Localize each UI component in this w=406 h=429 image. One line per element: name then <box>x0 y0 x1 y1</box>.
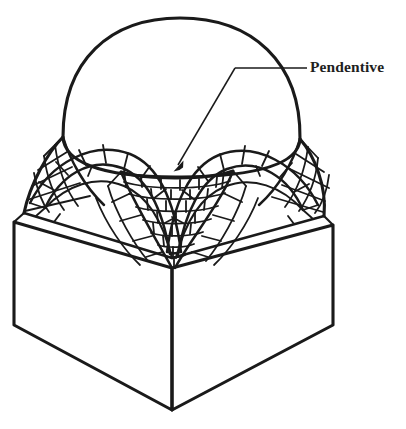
pendentive-joint-r2-d <box>204 200 205 210</box>
fan-right-2 <box>223 193 242 202</box>
pendentive-diagram: Pendentive <box>0 0 406 429</box>
arch-left-soffit <box>45 181 172 258</box>
pendentive-joint-r0-e <box>216 177 217 187</box>
base-cube <box>14 213 333 410</box>
pendentive-right-radial-1 <box>300 139 318 158</box>
fan-right-5 <box>192 252 208 257</box>
springing-right-1 <box>303 210 312 218</box>
dome <box>63 18 300 177</box>
pendentive-annotation: Pendentive <box>174 58 385 172</box>
dome-outline <box>63 18 300 177</box>
fan-left-2 <box>112 193 131 202</box>
arch-right-voussoir-6 <box>220 154 224 170</box>
pendentive-joint-r4-c <box>190 224 191 234</box>
pendentive-joint-r5-a <box>163 236 164 246</box>
fan-left-3 <box>120 215 141 221</box>
pendentive-right-radial-2 <box>296 154 324 172</box>
pendentive-label: Pendentive <box>310 58 384 75</box>
cube-top-left-rim <box>24 213 172 258</box>
cornice-left-depth <box>14 213 24 222</box>
arch-left-voussoir-8 <box>153 189 166 199</box>
pendentive-joint-r5-b <box>181 236 182 246</box>
pendentive-joint-r0-a <box>141 177 142 187</box>
pendentive-joint-r4-a <box>153 223 154 233</box>
springing-right-2 <box>288 216 294 224</box>
fan-right-4 <box>202 236 221 241</box>
cornice-right-depth <box>324 216 333 225</box>
pendentive-joint-r1-d <box>207 189 208 198</box>
pendentive-left <box>24 137 104 213</box>
leader-arrowhead <box>174 161 184 172</box>
fan-right-3 <box>213 215 234 221</box>
fan-left-arc-2 <box>96 198 140 265</box>
pendentive-joint-r2-a <box>147 199 148 210</box>
pendentive-course-1 <box>124 181 230 188</box>
pendentive-joint-r1-a <box>151 189 152 198</box>
pendentive-left-inner-arc <box>63 137 104 205</box>
springing-left-2 <box>54 214 60 222</box>
springing-left-1 <box>36 208 45 216</box>
pendentive-joint-r3-a <box>157 212 158 223</box>
arch-left-voussoir-6 <box>124 153 128 169</box>
pendentive-left-radial-1 <box>44 137 63 156</box>
arch-left-voussoir-5 <box>103 145 106 163</box>
fan-left-4 <box>133 236 152 241</box>
leader-diagonal <box>178 68 235 165</box>
arch-right-voussoir-5 <box>242 146 245 164</box>
diagram-canvas: Pendentive <box>0 0 406 429</box>
pendentive-left-radial-2 <box>38 152 67 170</box>
